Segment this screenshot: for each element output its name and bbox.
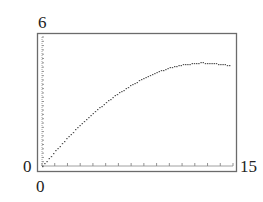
x-max-label: 15 xyxy=(240,158,257,175)
plot-frame xyxy=(38,34,237,172)
x-axis-ticks xyxy=(42,163,233,166)
y-min-label: 0 xyxy=(23,158,32,175)
data-curve xyxy=(42,62,230,167)
x-min-label: 0 xyxy=(36,178,45,195)
y-max-label: 6 xyxy=(38,14,47,31)
